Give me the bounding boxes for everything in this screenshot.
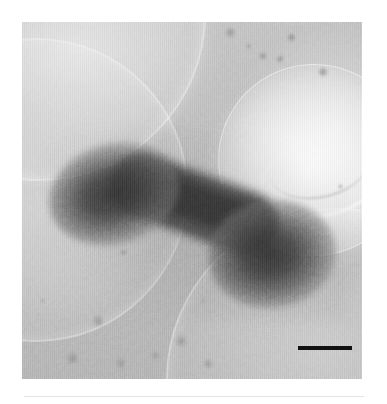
- contamination-speck: [66, 352, 79, 365]
- contamination-speck: [201, 298, 206, 303]
- contamination-speck: [259, 52, 267, 60]
- contamination-speck: [318, 67, 328, 77]
- contamination-speck: [92, 315, 104, 327]
- contamination-speck: [225, 27, 236, 38]
- contamination-speck: [246, 43, 252, 49]
- contamination-speck: [115, 358, 126, 369]
- contamination-speck: [338, 184, 343, 189]
- caption-separator: [24, 396, 364, 397]
- figure-root: [0, 0, 387, 404]
- contamination-speck: [203, 359, 213, 369]
- contamination-speck: [120, 249, 127, 256]
- contamination-speck: [287, 33, 296, 42]
- contamination-speck: [302, 217, 309, 224]
- vertical-streak-artifacts: [46, 134, 346, 324]
- scale-bar: [298, 346, 352, 350]
- contamination-speck: [40, 298, 45, 303]
- electron-micrograph[interactable]: [22, 22, 362, 379]
- contamination-speck: [151, 351, 160, 360]
- contamination-speck: [311, 225, 315, 229]
- contamination-speck: [175, 335, 187, 347]
- contamination-speck: [276, 55, 284, 63]
